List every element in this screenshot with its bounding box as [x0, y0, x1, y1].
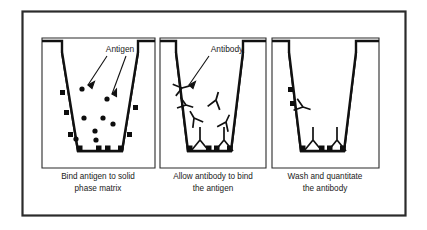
antigen-dot: [81, 115, 86, 120]
antigen-dot: [92, 128, 97, 133]
antigen-dot: [73, 136, 78, 141]
antigen-dot-wall: [127, 132, 132, 137]
antigen-callout-label: Antigen: [106, 44, 135, 54]
immunoassay-figure: Antigen Bind antigen to solid phase matr…: [0, 0, 427, 230]
panel-2-caption-line2: the antigen: [193, 184, 234, 193]
antigen-dot-wall: [290, 101, 295, 106]
antigen-dot-wall: [64, 110, 69, 115]
panel-3-caption-line1: Wash and quantitate: [288, 172, 363, 181]
panel-2: Antibody Allow antibody to bind the anti…: [160, 38, 266, 193]
panel-1-caption-line1: Bind antigen to solid: [61, 172, 135, 181]
antigen-dot: [110, 121, 115, 126]
panel-2-caption-line1: Allow antibody to bind: [173, 172, 253, 181]
antigen-dot-bottom: [118, 146, 124, 151]
antigen-dot-bottom: [105, 146, 111, 151]
panel-2-well-body: [176, 52, 243, 151]
antigen-dot-bottom: [77, 146, 83, 151]
antigen-dot: [79, 86, 84, 91]
panel-1-caption-line2: phase matrix: [75, 184, 122, 193]
antigen-dot-bottom: [96, 146, 102, 151]
antigen-dot-wall: [68, 132, 73, 137]
panel-3: Wash and quantitate the antibody: [272, 38, 379, 193]
antigen-dot-wall: [60, 90, 65, 95]
antigen-dot: [104, 96, 109, 101]
panel-3-caption-line2: the antibody: [303, 184, 349, 193]
antigen-dot: [93, 137, 98, 142]
panel-1: Antigen Bind antigen to solid phase matr…: [42, 38, 155, 193]
antigen-dot: [100, 115, 105, 120]
figure-canvas: Antigen Bind antigen to solid phase matr…: [0, 0, 427, 230]
antigen-dot-wall: [133, 105, 138, 110]
antigen-dot-wall: [288, 87, 293, 92]
antibody-callout-label: Antibody: [211, 44, 244, 54]
